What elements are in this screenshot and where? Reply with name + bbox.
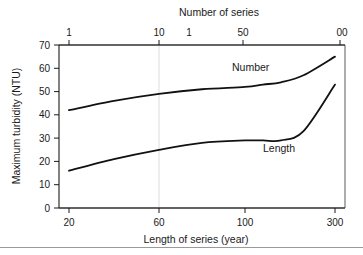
x-tick-label-60: 60 (153, 217, 165, 228)
y-tick-label-30: 30 (39, 133, 51, 144)
x-tick-label-300: 300 (327, 217, 344, 228)
top-tick-label-b: 10 (153, 27, 165, 38)
y-tick-label-20: 20 (39, 156, 51, 167)
chart-figure: 0 10 20 30 40 50 60 70 Maximum turbidity… (0, 0, 363, 255)
y-tick-label-0: 0 (44, 203, 50, 214)
series-label-number: Number (232, 61, 270, 73)
y-tick-label-60: 60 (39, 63, 51, 74)
x-axis-title: Length of series (year) (143, 233, 248, 245)
y-axis-title: Maximum turbidity (NTU) (10, 68, 22, 185)
top-axis-title: Number of series (179, 6, 259, 18)
top-tick-label-c: 1 (186, 27, 192, 38)
x-tick-label-20: 20 (63, 217, 75, 228)
top-tick-label-e: 00 (336, 27, 348, 38)
x-tick-label-100: 100 (237, 217, 254, 228)
y-tick-label-40: 40 (39, 109, 51, 120)
series-label-length: Length (263, 142, 295, 154)
top-tick-label-d: 50 (237, 27, 249, 38)
turbidity-line-chart: 0 10 20 30 40 50 60 70 Maximum turbidity… (0, 0, 363, 255)
y-tick-label-10: 10 (39, 179, 51, 190)
y-tick-label-50: 50 (39, 86, 51, 97)
y-tick-label-70: 70 (39, 40, 51, 51)
chart-background (0, 0, 363, 255)
top-tick-label-a: 1 (66, 27, 72, 38)
